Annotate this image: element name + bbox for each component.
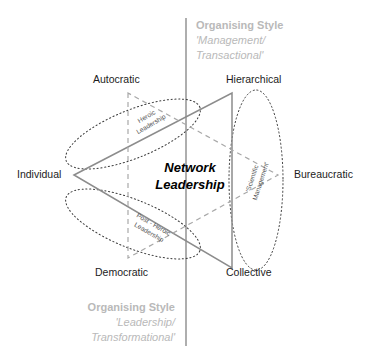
axis-heading-bottom-title: Organising Style bbox=[47, 300, 175, 315]
center-title-line2: Leadership bbox=[155, 177, 224, 192]
corner-label-collective: Collective bbox=[226, 266, 272, 279]
corner-label-autocratic: Autocratic bbox=[93, 73, 140, 86]
network-leadership-diagram: Organising Style 'Management/ Transactio… bbox=[0, 0, 372, 364]
axis-heading-top-sub2: Transactional' bbox=[196, 48, 283, 63]
corner-label-individual: Individual bbox=[17, 168, 61, 181]
corner-label-democratic: Democratic bbox=[95, 266, 148, 279]
axis-heading-bottom: Organising Style 'Leadership/ Transforma… bbox=[47, 300, 175, 345]
axis-heading-top-title: Organising Style bbox=[196, 18, 283, 33]
corner-label-bureaucratic: Bureaucratic bbox=[294, 168, 353, 181]
corner-label-hierarchical: Hierarchical bbox=[226, 73, 281, 86]
page-title: Network Leadership bbox=[140, 160, 240, 194]
axis-heading-top-sub1: 'Management/ bbox=[196, 33, 283, 48]
axis-heading-top: Organising Style 'Management/ Transactio… bbox=[196, 18, 283, 63]
center-title-line1: Network bbox=[164, 160, 215, 175]
axis-heading-bottom-sub2: Transformational' bbox=[47, 330, 175, 345]
axis-heading-bottom-sub1: 'Leadership/ bbox=[47, 315, 175, 330]
